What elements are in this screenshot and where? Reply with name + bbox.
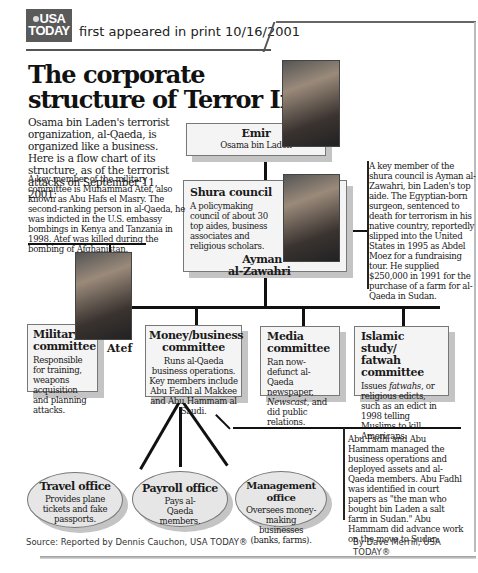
money-title-2: committee — [149, 342, 238, 354]
photo-bin-laden — [282, 60, 340, 147]
connector-payroll — [179, 407, 182, 467]
payroll-office-title: Payroll office — [133, 483, 227, 495]
connector-shura-down — [264, 276, 267, 308]
shura-person-line2: al-Zawahri — [228, 266, 340, 278]
logo-text-2: TODAY — [28, 23, 70, 38]
travel-office-title: Travel office — [28, 481, 122, 493]
atef-label: Atef — [107, 342, 132, 355]
usa-today-logo: USA TODAY — [26, 9, 72, 42]
node-travel-office: Travel office Provides plane tickets and… — [27, 472, 123, 528]
note-atef: A key member of the military committee i… — [28, 174, 188, 254]
islamic-title-2: fatwah committee — [361, 355, 442, 379]
note-money: Abu Fadhl and Abu Hammam managed the bus… — [348, 434, 466, 544]
management-office-desc: Oversees money-making businesses (banks,… — [236, 505, 326, 545]
connector-zawahri-note — [351, 230, 367, 232]
photo-al-zawahri — [283, 174, 340, 262]
page-title: The corporate structure of Terror Inc. — [28, 62, 317, 112]
connector-media — [302, 306, 305, 328]
photo-atef — [75, 252, 132, 340]
islamic-title-1: Islamic study/ — [361, 331, 442, 355]
source-credit: Source: Reported by Dennis Cauchon, USA … — [26, 537, 247, 547]
islamic-desc: Issues fatwahs, or religious edicts, suc… — [361, 381, 442, 441]
node-islamic-study-committee: Islamic study/ fatwah committee Issues f… — [354, 326, 449, 396]
node-management-office: Management office Oversees money-making … — [235, 471, 327, 527]
money-desc: Runs al-Qaeda business operations. Key m… — [149, 356, 238, 416]
payroll-office-desc: Pays al-Qaeda members. — [133, 496, 227, 526]
media-title-2: committee — [267, 343, 333, 355]
header-top-rule — [276, 21, 476, 23]
node-payroll-office: Payroll office Pays al-Qaeda members. — [132, 471, 228, 527]
bottom-rule — [40, 556, 476, 559]
title-line-2: structure of Terror Inc. — [28, 87, 317, 112]
media-desc: Ran now-defunct al-Qaeda newspaper, News… — [267, 357, 333, 427]
management-office-title: Management office — [236, 480, 326, 504]
connector-money-note-diag — [215, 414, 230, 429]
node-media-committee: Media committee Ran now-defunct al-Qaeda… — [260, 326, 340, 396]
money-note-bar — [343, 428, 345, 520]
note-zawahri: A key member of the shura council is Aym… — [369, 161, 478, 301]
header-rule — [26, 49, 271, 51]
travel-office-desc: Provides plane tickets and fake passport… — [28, 494, 122, 524]
shura-desc: A policymaking council of about 30 top a… — [190, 201, 275, 251]
title-line-1: The corporate — [28, 62, 317, 87]
connector-islamic — [402, 306, 405, 328]
military-desc: Responsible for training, weapons acquis… — [33, 355, 92, 415]
military-title-2: committee — [33, 341, 92, 353]
node-money-committee: Money/business committee Runs al-Qaeda b… — [145, 325, 242, 397]
globe-icon — [33, 16, 39, 22]
byline: By Dave Merrill, USA TODAY® — [353, 537, 478, 557]
connector-committees-bar — [130, 306, 440, 309]
